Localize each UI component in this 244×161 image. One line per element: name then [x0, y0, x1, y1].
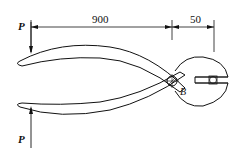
force-bottom: P — [18, 106, 33, 148]
dimension-50: 50 — [172, 13, 214, 52]
dimension-50-label: 50 — [190, 13, 202, 25]
pliers-diagram: 900 50 P P B — [0, 0, 244, 161]
force-top: P — [18, 20, 33, 54]
jaw-object — [195, 76, 228, 84]
jaw-head — [175, 57, 228, 106]
pivot-label: B — [180, 86, 186, 97]
force-bottom-label: P — [18, 133, 25, 145]
dimension-900-label: 900 — [92, 13, 109, 25]
force-top-label: P — [18, 20, 25, 32]
top-handle — [17, 45, 185, 92]
